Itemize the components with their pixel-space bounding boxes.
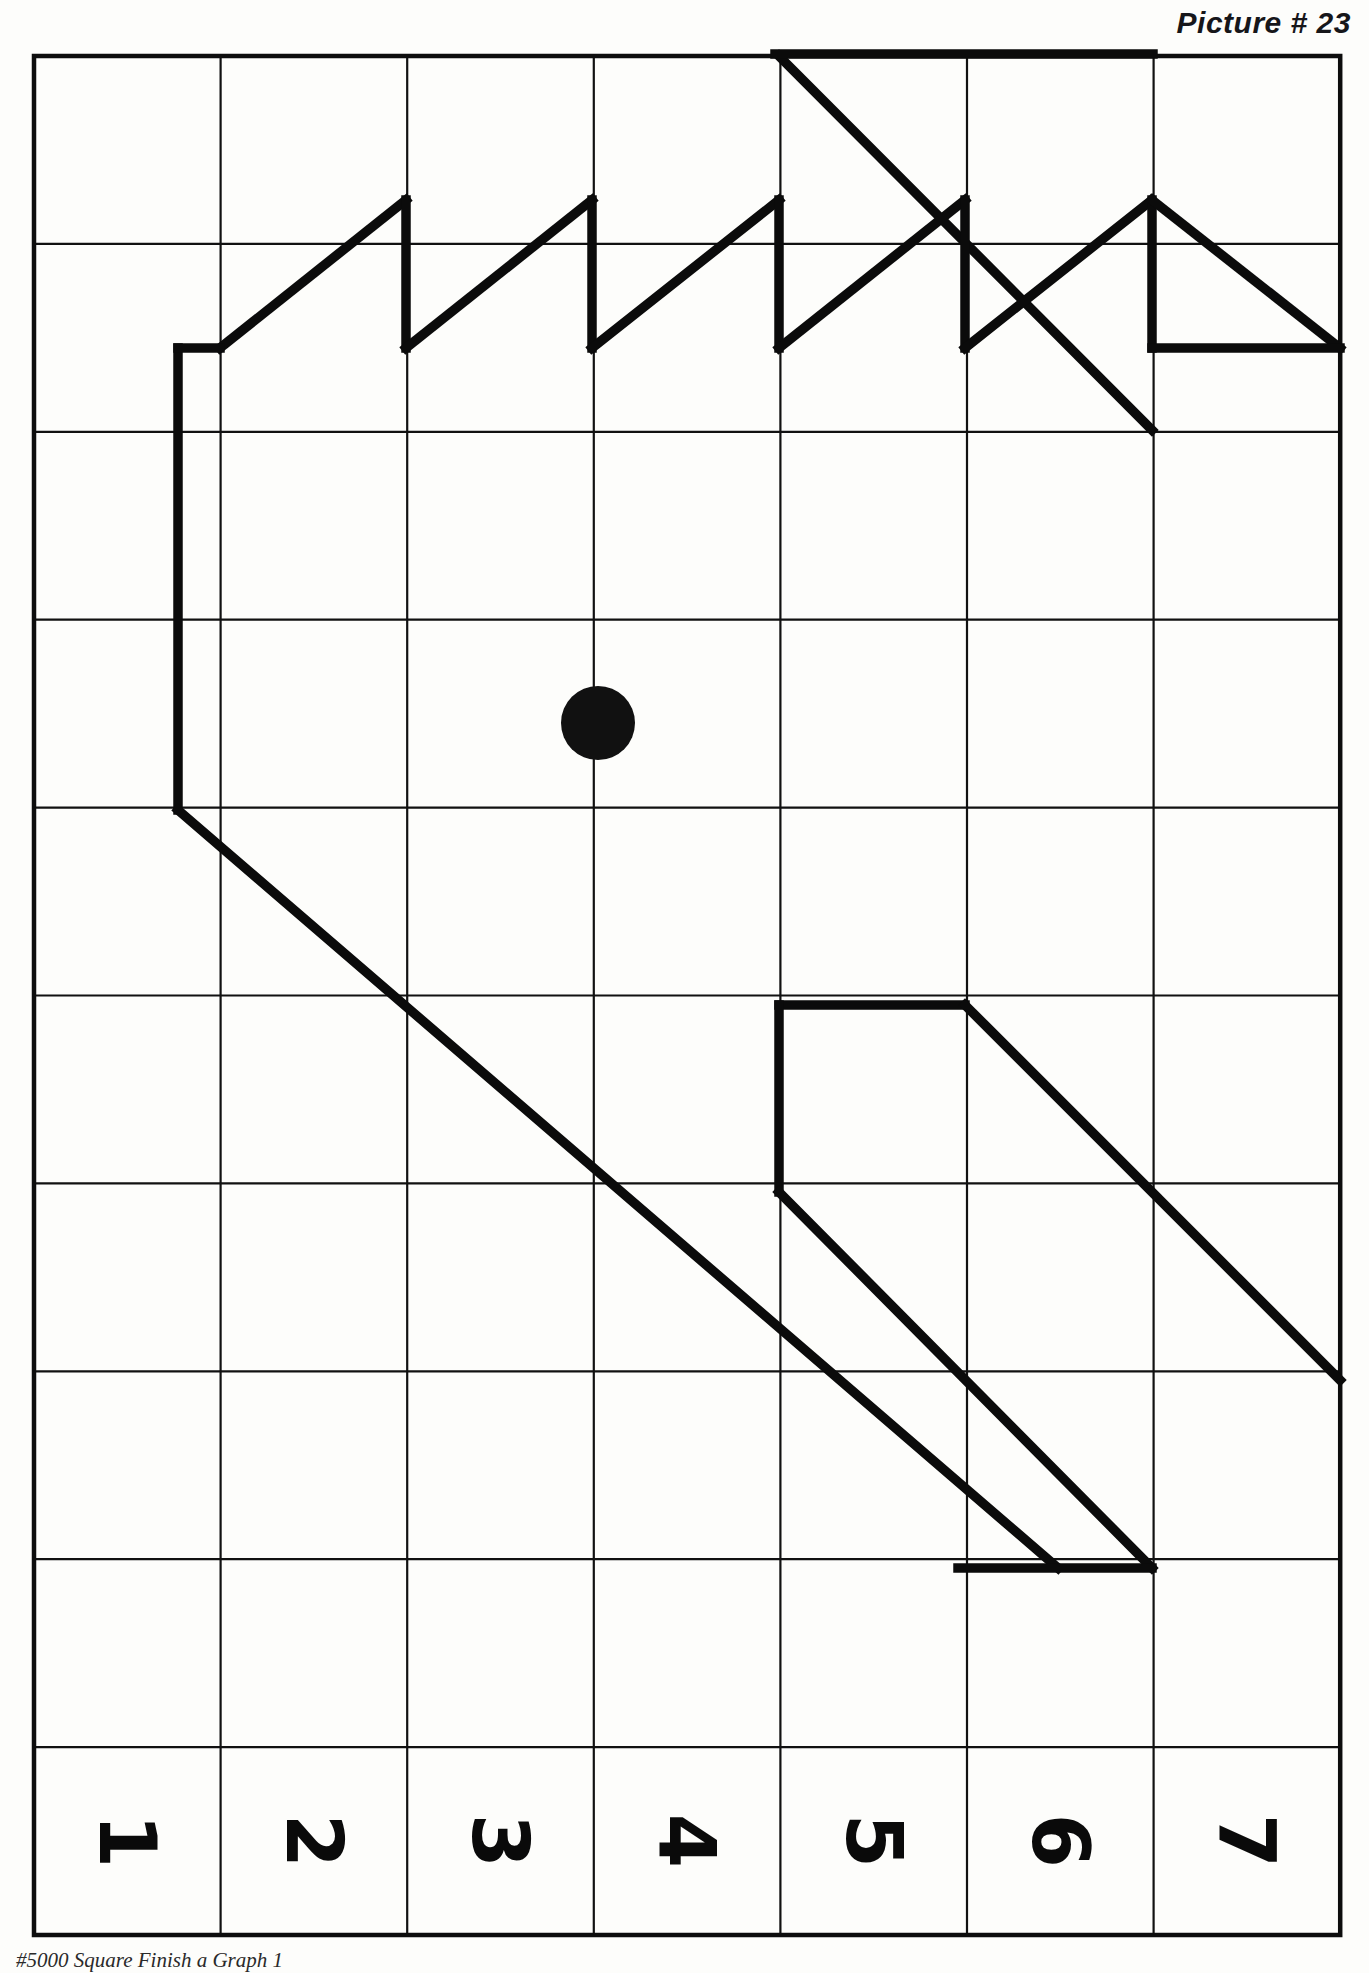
footer-note: #5000 Square Finish a Graph 1 xyxy=(16,1948,283,1973)
origin-dot-marker xyxy=(561,686,635,760)
figure-stroke-long-diagonal xyxy=(178,810,1058,1568)
origin-dot xyxy=(561,686,635,760)
figure-stroke-zigzag-3-rise xyxy=(592,200,779,348)
figure-stroke-zigzag-4-rise xyxy=(779,200,965,348)
figure-stroke-zigzag-1-rise xyxy=(220,200,406,348)
figure-stroke-zigzag-2-rise xyxy=(406,200,592,348)
figure-stroke-peak-descent xyxy=(1152,200,1340,348)
figure-paths xyxy=(178,54,1340,1568)
